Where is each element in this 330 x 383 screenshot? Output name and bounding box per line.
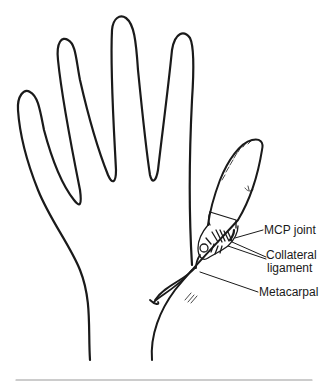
mcp-joint-detail [198, 212, 238, 259]
hand-outline [18, 17, 193, 361]
hand-diagram [0, 0, 330, 383]
label-mcp-joint: MCP joint [264, 224, 316, 237]
label-collateral-ligament-line2: ligament [267, 262, 312, 275]
label-metacarpal: Metacarpal [259, 286, 318, 299]
